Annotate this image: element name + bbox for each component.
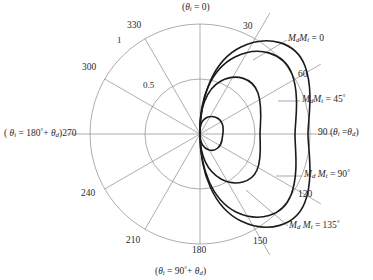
angular-tick-300: 300 (82, 63, 96, 73)
angular-tick-60: 60 (298, 70, 308, 80)
axis-label-top: (θi = 0) (182, 3, 210, 13)
axis-label-right: 90 (θi =θd) (318, 128, 359, 138)
spoke-210 (145, 134, 200, 229)
curve-label-md-mt-0: MdMt = 0 (288, 34, 324, 44)
angular-tick-180: 180 (192, 246, 206, 256)
spoke-60 (200, 79, 295, 134)
radial-tick-1: 1 (117, 36, 122, 45)
angular-tick-150: 150 (253, 237, 267, 247)
tick-ext-30 (255, 13, 270, 39)
angular-tick-210: 210 (126, 236, 140, 246)
curve-label-md-mt-135: Md Mt = 135° (289, 220, 340, 231)
angular-tick-240: 240 (81, 189, 95, 199)
polar-chart-figure: 30 60 120 150 180 210 240 300 330 1 0.5 … (0, 0, 373, 280)
angular-tick-30: 30 (243, 22, 253, 32)
axis-label-bottom: (θi = 90°+ θd) (155, 266, 206, 277)
angular-tick-120: 120 (298, 190, 312, 200)
curve-label-md-mt-90: Md Mt = 90° (304, 169, 350, 180)
curve-md-mt-135 (200, 116, 223, 150)
axis-label-left: ( θi = 180°+ θd)270 (4, 128, 76, 139)
curve-md-mt-90 (200, 77, 261, 183)
angular-tick-330: 330 (127, 21, 141, 31)
radial-tick-0-5: 0.5 (143, 81, 154, 90)
spoke-240 (105, 134, 200, 189)
curve-leader-lines (246, 40, 302, 226)
curve-label-md-mt-45: MdMt = 45° (302, 94, 345, 105)
